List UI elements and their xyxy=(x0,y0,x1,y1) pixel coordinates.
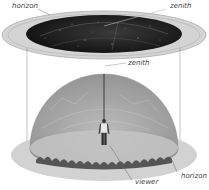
diagram-graphic xyxy=(0,0,209,190)
label-top-horizon: horizon xyxy=(12,3,38,10)
label-dome-zenith: zenith xyxy=(128,60,150,67)
celestial-dome xyxy=(11,63,197,181)
flattened-sky-disk xyxy=(2,9,206,59)
label-bottom-horizon: horizon xyxy=(181,173,207,180)
label-top-zenith: zenith xyxy=(170,3,192,10)
label-viewer: viewer xyxy=(135,179,158,186)
celestial-sphere-diagram: horizon zenith zenith viewer horizon xyxy=(0,0,209,190)
